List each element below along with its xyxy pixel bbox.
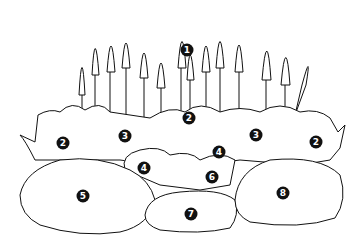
marker-2: 2 — [310, 136, 323, 149]
marker-6: 6 — [206, 171, 219, 184]
plant-outline-drawing — [0, 0, 360, 249]
marker-8: 8 — [277, 187, 290, 200]
marker-2: 2 — [183, 112, 196, 125]
marker-2: 2 — [57, 137, 70, 150]
planting-diagram: 1 2 2 2 3 3 4 4 5 6 7 8 — [0, 0, 360, 249]
marker-3: 3 — [250, 129, 263, 142]
marker-3: 3 — [119, 130, 132, 143]
marker-4: 4 — [213, 146, 226, 159]
marker-4: 4 — [138, 162, 151, 175]
marker-7: 7 — [185, 208, 198, 221]
marker-5: 5 — [77, 190, 90, 203]
marker-1: 1 — [181, 44, 194, 57]
